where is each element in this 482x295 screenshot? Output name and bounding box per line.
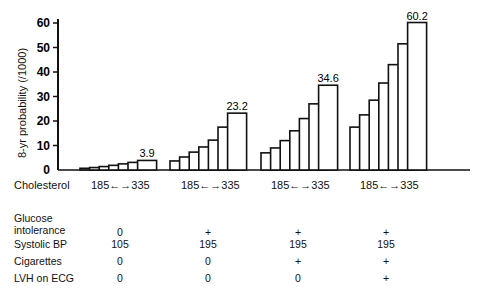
bar-value-label: 34.6	[317, 72, 338, 84]
table-cell-systolic-bp: 195	[366, 238, 406, 250]
table-cell-systolic-bp: 195	[278, 238, 318, 250]
y-tick-label: 50	[37, 41, 51, 55]
y-tick-label: 20	[37, 114, 51, 128]
table-cell-glucose-intolerance: +	[188, 226, 228, 238]
table-cell-glucose-intolerance: +	[278, 226, 318, 238]
table-cell-cigarettes: +	[366, 255, 406, 267]
bar	[319, 85, 338, 170]
bar-value-label: 23.2	[226, 100, 247, 112]
y-axis-label: 8-yr probability (/1000)	[16, 48, 28, 158]
row-label-lvh-on-ecg: LVH on ECG	[14, 272, 74, 284]
y-tick-label: 0	[43, 163, 50, 177]
bar	[228, 113, 247, 170]
bar-value-label: 3.9	[139, 147, 154, 159]
row-label-cigarettes: Cigarettes	[14, 255, 62, 267]
bar	[138, 160, 157, 170]
table-cell-glucose-intolerance: +	[366, 226, 406, 238]
table-cell-lvh-on-ecg: 0	[278, 272, 318, 284]
bar-chart: 01020304050603.923.234.660.2	[0, 0, 482, 200]
row-label-glucose: Glucose intolerance	[14, 212, 65, 236]
y-tick-label: 10	[37, 139, 51, 153]
table-cell-cigarettes: 0	[188, 255, 228, 267]
table-cell-cigarettes: +	[278, 255, 318, 267]
x-axis-label: Cholesterol	[14, 179, 70, 191]
y-tick-label: 30	[37, 90, 51, 104]
cholesterol-range-label: 185←→335	[91, 179, 150, 191]
row-label-systolic-bp: Systolic BP	[14, 238, 67, 250]
bar-value-label: 60.2	[406, 10, 427, 22]
table-cell-lvh-on-ecg: 0	[100, 272, 140, 284]
table-cell-lvh-on-ecg: +	[366, 272, 406, 284]
table-cell-lvh-on-ecg: 0	[188, 272, 228, 284]
cholesterol-range-label: 185←→335	[181, 179, 240, 191]
bar	[408, 23, 427, 170]
cholesterol-range-label: 185←→335	[360, 179, 419, 191]
table-cell-glucose-intolerance: 0	[100, 226, 140, 238]
table-cell-cigarettes: 0	[100, 255, 140, 267]
y-tick-label: 40	[37, 65, 51, 79]
table-cell-systolic-bp: 195	[188, 238, 228, 250]
table-cell-systolic-bp: 105	[100, 238, 140, 250]
y-tick-label: 60	[37, 16, 51, 30]
cholesterol-range-label: 185←→335	[271, 179, 330, 191]
